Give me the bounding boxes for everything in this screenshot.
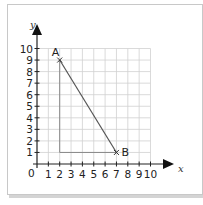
y-tick-label: 4	[26, 112, 33, 124]
x-tick-label: 6	[102, 168, 109, 180]
y-tick-label: 7	[26, 77, 33, 89]
x-axis-label: x	[178, 163, 184, 174]
x-tick-labels: 12345678910	[45, 168, 157, 180]
grid-lines	[37, 49, 151, 165]
y-tick-label: 8	[26, 66, 33, 78]
x-tick-label: 8	[124, 168, 131, 180]
x-tick-label: 9	[136, 168, 143, 180]
x-tick-label: 7	[113, 168, 120, 180]
y-tick-label: 9	[26, 54, 33, 66]
point-a-label: A	[52, 46, 60, 59]
x-tick-label: 4	[79, 168, 86, 180]
origin-label: 0	[28, 167, 35, 179]
y-tick-labels: 12345678910	[20, 43, 34, 159]
y-tick-label: 3	[26, 123, 33, 135]
y-axis-label: y	[29, 19, 36, 30]
y-tick-label: 6	[26, 89, 33, 101]
y-tick-label: 10	[20, 43, 33, 55]
point-b-label: B	[121, 146, 129, 159]
x-tick-label: 2	[56, 168, 63, 180]
coordinate-grid-diagram: y x 0 12345678910 12345678910 A B	[0, 0, 203, 205]
x-axis-arrow-icon	[163, 159, 174, 169]
y-tick-label: 1	[26, 146, 33, 158]
x-tick-label: 5	[90, 168, 97, 180]
x-tick-label: 10	[144, 168, 157, 180]
x-tick-label: 1	[45, 168, 52, 180]
y-tick-label: 2	[26, 135, 33, 147]
x-tick-label: 3	[68, 168, 75, 180]
y-tick-label: 5	[26, 100, 33, 112]
axis-ticks	[35, 49, 151, 167]
